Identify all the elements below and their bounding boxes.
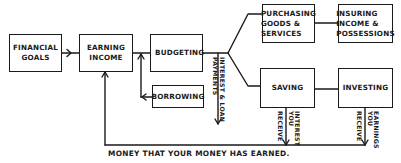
label-investing-receive: RECEIVE — [356, 111, 363, 141]
node-financial-goals: FINANCIAL GOALS — [9, 34, 62, 72]
node-purchasing: PURCHASING GOODS & SERVICES — [262, 4, 315, 43]
label-saving-you: YOU — [288, 111, 295, 126]
node-saving: SAVING — [260, 68, 315, 108]
label-interest-loan-1: INTEREST & LOAN — [219, 57, 226, 122]
node-investing: INVESTING — [338, 68, 393, 108]
node-budgeting: BUDGETING — [150, 34, 203, 72]
node-investing-label: INVESTING — [343, 83, 389, 93]
node-earning-income-label: EARNING INCOME — [87, 43, 125, 63]
label-investing-earnings: EARNINGS — [373, 111, 380, 149]
node-purchasing-label: PURCHASING GOODS & SERVICES — [261, 9, 316, 39]
node-financial-goals-label: FINANCIAL GOALS — [13, 43, 58, 63]
node-borrowing: BORROWING — [152, 85, 204, 108]
node-borrowing-label: BORROWING — [151, 92, 204, 102]
label-investing-you: YOU — [367, 111, 374, 126]
node-budgeting-label: BUDGETING — [155, 48, 204, 58]
node-insuring: INSURING INCOME & POSSESSIONS — [338, 4, 393, 43]
label-saving-interest: INTEREST — [294, 111, 301, 146]
bottom-caption: MONEY THAT YOUR MONEY HAS EARNED. — [108, 149, 290, 158]
node-earning-income: EARNING INCOME — [79, 34, 133, 72]
label-saving-receive: RECEIVE — [277, 111, 284, 141]
label-interest-loan-2: PAYMENTS — [212, 57, 219, 95]
node-saving-label: SAVING — [272, 83, 304, 93]
node-insuring-label: INSURING INCOME & POSSESSIONS — [336, 9, 395, 39]
